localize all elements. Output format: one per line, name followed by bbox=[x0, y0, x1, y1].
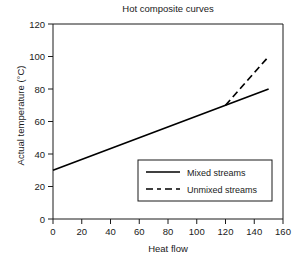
y-axis-tick-labels: 120 100 80 60 40 20 0 bbox=[29, 19, 45, 225]
y-tick-label: 60 bbox=[34, 116, 45, 127]
y-tick-label: 80 bbox=[34, 84, 45, 95]
y-tick-label: 20 bbox=[34, 181, 45, 192]
chart-legend: Mixed streams Unmixed streams bbox=[138, 160, 272, 201]
x-tick-label: 60 bbox=[134, 226, 145, 237]
y-tick-label: 0 bbox=[40, 214, 45, 225]
y-tick-label: 40 bbox=[34, 149, 45, 160]
plot-area: 120 100 80 60 40 20 0 0 20 40 60 80 bbox=[0, 0, 300, 266]
x-tick-label: 0 bbox=[50, 226, 55, 237]
chart-figure: Hot composite curves Actual temperature … bbox=[0, 0, 300, 266]
x-tick-label: 120 bbox=[218, 226, 234, 237]
x-tick-label: 140 bbox=[246, 226, 262, 237]
x-tick-label: 160 bbox=[275, 226, 291, 237]
x-axis-tick-labels: 0 20 40 60 80 100 120 140 160 bbox=[50, 226, 291, 237]
y-axis-ticks bbox=[48, 24, 53, 219]
series-line-mixed-streams bbox=[53, 89, 269, 170]
x-tick-label: 100 bbox=[189, 226, 205, 237]
legend-label-mixed-streams: Mixed streams bbox=[187, 168, 246, 178]
x-tick-label: 20 bbox=[76, 226, 87, 237]
x-tick-label: 80 bbox=[163, 226, 174, 237]
legend-label-unmixed-streams: Unmixed streams bbox=[187, 185, 258, 195]
x-tick-label: 40 bbox=[105, 226, 116, 237]
y-tick-label: 120 bbox=[29, 19, 45, 30]
x-axis-ticks bbox=[53, 219, 283, 224]
data-series-layer bbox=[53, 57, 269, 171]
y-tick-label: 100 bbox=[29, 51, 45, 62]
